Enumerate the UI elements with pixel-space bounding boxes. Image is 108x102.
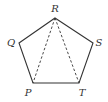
dashed-segment-rt: [55, 18, 79, 83]
vertex-label-s: S: [96, 37, 103, 48]
dashed-segment-rp: [33, 18, 55, 83]
vertex-label-r: R: [50, 3, 59, 14]
pentagon-diagram: R S T P Q: [0, 0, 108, 102]
vertex-label-t: T: [79, 87, 87, 98]
vertex-label-p: P: [24, 87, 32, 98]
pentagon-outline: [19, 18, 93, 83]
vertex-label-q: Q: [7, 37, 15, 48]
